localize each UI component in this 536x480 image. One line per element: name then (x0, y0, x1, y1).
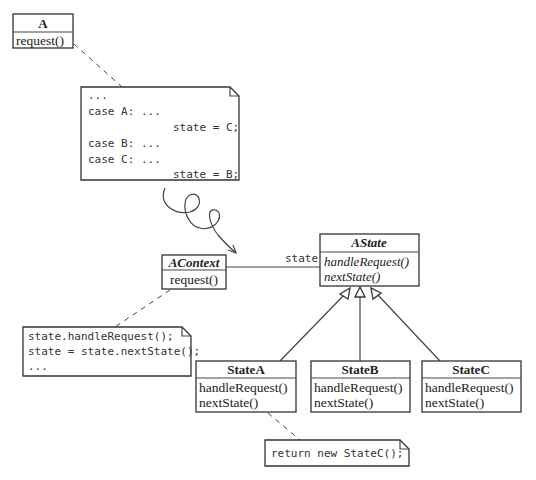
note-line: case A: ... (88, 105, 161, 118)
note-line: state = B; (173, 168, 239, 181)
class-astate-name: AState (350, 235, 387, 250)
state-pattern-diagram: A request() ... case A: ... state = C; c… (0, 0, 536, 480)
note-connector-a (74, 44, 122, 87)
note-context: state.handleRequest(); state = state.nex… (23, 327, 200, 376)
class-acontext-method: request() (170, 272, 218, 287)
note-line: case B: ... (88, 137, 161, 150)
class-statea[interactable]: StateA handleRequest() nextState() (196, 361, 296, 412)
class-statec-name: StateC (452, 362, 490, 377)
class-a-name: A (38, 16, 48, 31)
note-connector-statea (268, 413, 300, 440)
note-statea: return new StateC(); (265, 440, 409, 466)
note-line: return new StateC(); (271, 447, 403, 460)
class-a[interactable]: A request() (13, 14, 73, 48)
class-statea-method: nextState() (199, 395, 258, 410)
class-stateb-name: StateB (342, 362, 379, 377)
class-statea-name: StateA (227, 362, 265, 377)
note-line: ... (88, 89, 108, 102)
note-line: state = C; (173, 121, 239, 134)
class-statec-method: handleRequest() (425, 380, 513, 395)
note-switch: ... case A: ... state = C; case B: ... c… (81, 87, 239, 181)
inheritance-arrows (280, 287, 440, 361)
class-acontext-name: AContext (168, 255, 220, 270)
note-connector-context (115, 290, 170, 327)
class-stateb[interactable]: StateB handleRequest() nextState() (311, 361, 410, 412)
class-acontext[interactable]: AContext request() (162, 255, 226, 289)
note-line: state.handleRequest(); (28, 330, 174, 343)
class-a-method: request() (16, 33, 64, 48)
association-label: state (285, 252, 318, 265)
class-statec[interactable]: StateC handleRequest() nextState() (422, 361, 521, 412)
note-line: ... (28, 360, 48, 373)
class-astate[interactable]: AState handleRequest() nextState() (320, 234, 419, 286)
note-line: case C: ... (88, 153, 161, 166)
note-line: state = state.nextState(); (28, 345, 200, 358)
class-stateb-method: nextState() (314, 395, 373, 410)
class-statec-method: nextState() (425, 395, 484, 410)
class-stateb-method: handleRequest() (314, 380, 402, 395)
squiggle-arrow-icon (163, 188, 236, 253)
class-astate-method: nextState() (324, 269, 380, 284)
class-astate-method: handleRequest() (324, 254, 409, 269)
class-statea-method: handleRequest() (199, 380, 287, 395)
